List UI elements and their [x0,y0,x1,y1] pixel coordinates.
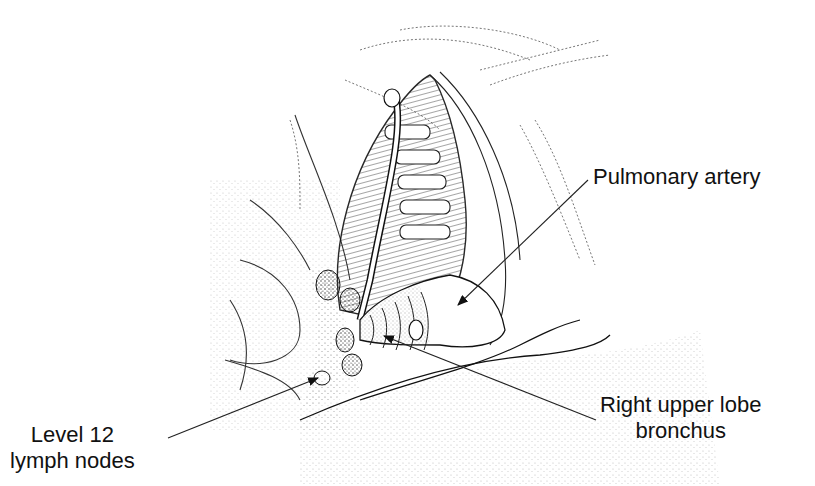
label-text: lymph nodes [10,448,135,474]
label-text: bronchus [600,418,761,444]
anatomical-figure: Pulmonary artery Level 12 lymph nodes Ri… [0,0,815,486]
label-text: Pulmonary artery [593,164,761,190]
label-text: Level 12 [10,422,135,448]
label-right-upper-lobe-bronchus: Right upper lobe bronchus [600,392,761,444]
pulmonary-artery-leader [458,180,588,305]
label-level-12-lymph-nodes: Level 12 lymph nodes [10,422,135,474]
label-text: Right upper lobe [600,392,761,418]
label-pulmonary-artery: Pulmonary artery [593,164,761,190]
